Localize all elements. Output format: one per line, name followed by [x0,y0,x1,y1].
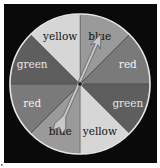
spinner-svg: blueredgreenyellowblueredgreenyellow [0,0,160,168]
corner-mark [1,164,3,166]
sector-label: red [119,58,137,70]
sector-label: red [23,97,41,109]
spinner-hub [78,82,83,87]
spinner-figure: blueredgreenyellowblueredgreenyellow [0,0,160,168]
sector-label: green [112,97,143,109]
sector-label: yellow [42,30,77,42]
sector-label: green [17,58,48,70]
sector-label: yellow [82,125,117,137]
